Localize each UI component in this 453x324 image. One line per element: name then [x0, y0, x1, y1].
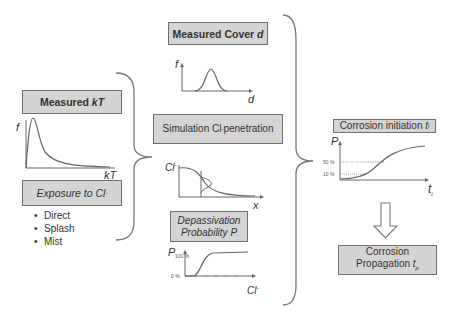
depass-plot-xlabel: Cl-: [247, 283, 258, 296]
cover-variable: d: [257, 28, 263, 40]
measured-kt-label: Measured: [40, 96, 89, 108]
kt-plot-ylabel: f: [16, 122, 19, 133]
exposure-item-mist: Mist: [34, 235, 75, 248]
measured-kt-box: Measured kT: [22, 90, 122, 114]
propagation-line2-text: Propagation: [356, 258, 413, 269]
propagation-line2: Propagation tp: [356, 258, 419, 274]
exposure-box: Exposure to Cl-: [22, 180, 122, 206]
exposure-sup: -: [105, 187, 107, 199]
measured-cover-label: Measured Cover: [172, 28, 254, 40]
cover-plot-ylabel: f: [175, 59, 178, 70]
simulation-label-rest: penetration: [223, 123, 273, 135]
propagation-line1: Corrosion: [366, 246, 409, 258]
depass-ytick-0: 0 %: [171, 274, 180, 279]
depass-ytick-100: 100 %: [175, 254, 189, 259]
exposure-item-direct: Direct: [34, 209, 75, 222]
down-arrow: [374, 203, 397, 238]
cover-distribution-plot: [180, 63, 253, 93]
kt-distribution-plot: [26, 118, 115, 168]
chloride-ylabel-sup: -: [174, 162, 176, 168]
chloride-plot-ylabel: Cl-: [165, 160, 176, 173]
exposure-list: Direct Splash Mist: [34, 209, 75, 248]
simulation-label: Simulation Cl: [163, 123, 222, 135]
initiation-sub: i: [428, 120, 429, 132]
corrosion-initiation-box: Corrosion initiation ti: [333, 119, 436, 133]
initiation-plot-ylabel: P: [331, 136, 338, 147]
cover-plot-xlabel: d: [248, 94, 254, 105]
exposure-item-splash: Splash: [34, 222, 75, 235]
initiation-label: Corrosion initiation: [340, 120, 423, 132]
right-brace: [283, 15, 313, 305]
initiation-xlabel-sub: i: [431, 191, 432, 197]
initiation-ytick-50: 50 %: [323, 160, 334, 165]
chloride-plot-xlabel: x: [253, 200, 259, 211]
initiation-plot-xlabel: ti: [428, 184, 433, 200]
diagram-graphics: [0, 0, 453, 324]
depassivation-line2: Probability P: [181, 227, 237, 239]
simulation-box: Simulation Cl- penetration: [153, 114, 283, 144]
initiation-plot: [338, 141, 429, 182]
depass-xlabel-sup: -: [256, 285, 258, 291]
depassivation-line1: Depassivation: [178, 215, 241, 227]
initiation-ytick-10: 10 %: [323, 172, 334, 177]
corrosion-propagation-box: Corrosion Propagation tp: [338, 245, 437, 275]
measured-cover-box: Measured Cover d: [168, 22, 268, 45]
propagation-sub: p: [416, 265, 419, 271]
chloride-profile-plot: [179, 165, 264, 199]
depassivation-box: Depassivation Probability P: [170, 211, 248, 242]
depassivation-plot: [183, 250, 256, 278]
exposure-label: Exposure to Cl: [37, 187, 106, 199]
kt-variable: kT: [92, 96, 104, 108]
